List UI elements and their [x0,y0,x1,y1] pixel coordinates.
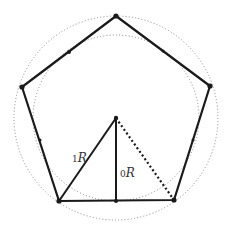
center-point [114,116,118,120]
apothem-label-letter: R [125,166,135,180]
midpoint-top-right [162,50,165,53]
circumradius-label: 1R [72,151,87,165]
midpoint-right [192,139,195,142]
circumradius-line [59,118,116,201]
vertex-bottom-right [171,197,176,202]
dotted-radius-line [116,118,174,200]
midpoint-top-left [67,50,71,54]
midpoint-bottom [114,199,118,203]
vertex-left [19,84,24,89]
vertex-right [207,83,212,88]
vertex-top [113,13,118,18]
apothem-label: 0R [120,166,135,180]
vertex-bottom-left [56,198,61,203]
pentagon-diagram: 1R 0R [0,0,230,234]
midpoint-left [39,139,42,142]
circumradius-label-letter: R [77,151,87,165]
